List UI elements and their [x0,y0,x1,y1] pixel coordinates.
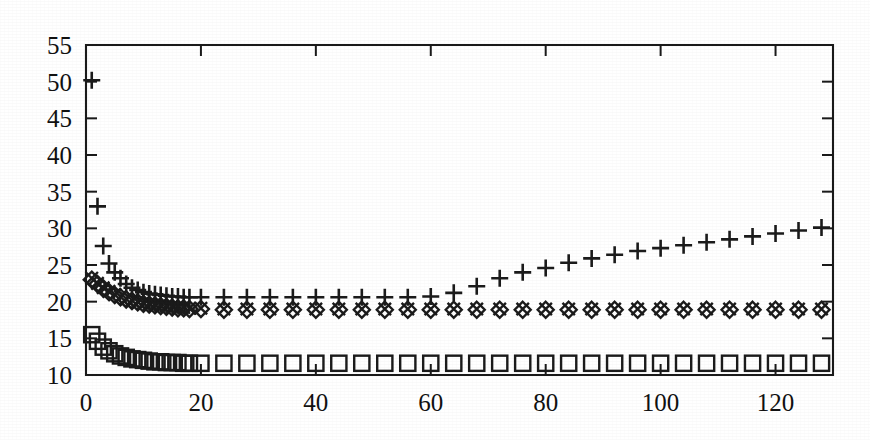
data-point-square [446,356,461,371]
data-point-cross [677,303,689,315]
data-point-plus [652,240,669,257]
y-tick-label: 25 [47,252,72,279]
data-point-square [262,356,277,371]
data-point-cross [723,303,735,315]
x-tick-label: 40 [303,389,328,416]
data-point-square [176,356,191,371]
x-tick-label: 60 [418,389,443,416]
data-point-square [165,355,180,370]
data-point-plus [560,254,577,271]
data-point-cross [517,303,529,315]
data-point-cross [746,303,758,315]
data-point-plus [675,237,692,254]
y-tick-label: 10 [47,362,72,389]
data-point-plus [744,228,761,245]
data-point-plus [514,264,531,281]
data-point-plus [698,234,715,251]
data-point-cross [769,303,781,315]
data-point-square [285,356,300,371]
axis-ticks [86,45,833,375]
scatter-plot-canvas: 10152025303540455055 020406080100120 [0,0,870,440]
x-tick-label: 120 [757,389,795,416]
data-point-plus [629,243,646,260]
y-tick-label: 30 [47,215,72,242]
data-point-square [745,356,760,371]
data-point-plus [790,222,807,239]
data-point-plus [491,270,508,287]
data-point-plus [89,198,106,215]
y-tick-label: 15 [47,325,72,352]
series-plus-markers [83,72,830,306]
x-tick-label: 0 [80,389,93,416]
x-tick-label: 80 [533,389,558,416]
series-square-markers [84,327,829,371]
data-point-plus [813,219,830,236]
data-point-cross [471,303,483,315]
data-point-square [239,356,254,371]
chart-figure: 10152025303540455055 020406080100120 [0,0,870,440]
data-point-square [170,355,185,370]
data-point-square [492,356,507,371]
data-point-plus [606,246,623,263]
data-point-plus [537,259,554,276]
x-axis-tick-labels: 020406080100120 [80,389,795,416]
data-point-square [814,356,829,371]
data-point-plus [721,231,738,248]
data-point-cross [700,303,712,315]
data-point-cross [608,303,620,315]
data-point-cross [562,303,574,315]
y-tick-label: 20 [47,289,72,316]
y-tick-label: 55 [47,32,72,59]
data-point-square [377,356,392,371]
data-point-plus [445,284,462,301]
data-point-square [791,356,806,371]
data-point-cross [654,303,666,315]
data-point-cross [494,303,506,315]
data-point-square [699,356,714,371]
plot-axes [86,45,833,375]
data-point-square [182,356,197,371]
data-point-cross [585,303,597,315]
data-point-square [630,356,645,371]
data-point-square [722,356,737,371]
data-point-cross [631,303,643,315]
data-point-square [607,356,622,371]
data-point-square [331,356,346,371]
data-point-cross [539,303,551,315]
data-point-square [515,356,530,371]
data-point-cross [792,303,804,315]
data-point-square [153,354,168,369]
data-point-square [469,356,484,371]
data-point-cross [815,303,827,315]
y-axis-tick-labels: 10152025303540455055 [47,32,72,389]
data-point-square [354,356,369,371]
data-point-plus [583,250,600,267]
data-point-square [676,356,691,371]
y-tick-label: 40 [47,142,72,169]
x-tick-label: 100 [642,389,680,416]
data-point-square [561,356,576,371]
data-point-plus [468,278,485,295]
data-point-square [584,356,599,371]
data-point-square [216,356,231,371]
data-point-plus [95,237,112,254]
y-tick-label: 35 [47,179,72,206]
y-tick-label: 50 [47,69,72,96]
data-point-plus [422,288,439,305]
data-point-plus [767,225,784,242]
y-tick-label: 45 [47,105,72,132]
x-tick-label: 20 [188,389,213,416]
data-point-square [400,356,415,371]
data-point-square [159,355,174,370]
data-point-cross [448,303,460,315]
